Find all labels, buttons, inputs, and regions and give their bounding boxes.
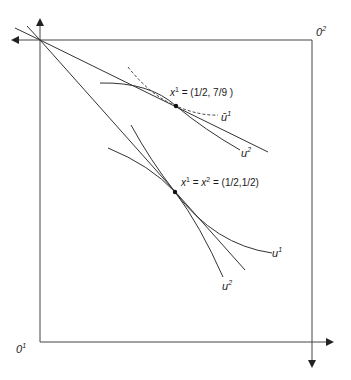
- curve-label-u2-lower: u2: [222, 279, 232, 292]
- curve-label-u2-upper: u2: [241, 146, 251, 159]
- origin-agent1-label: 01: [16, 342, 26, 355]
- budget-line-lower: [40, 40, 245, 270]
- edgeworth-box-diagram: 01 02 x1 = (1/2, 7/9 ) x1 = x2 = (1/2,1/…: [0, 0, 351, 380]
- point-upper-label: x1 = (1/2, 7/9 ): [169, 86, 233, 98]
- origin-agent2-label: 02: [316, 25, 326, 38]
- budget-line-lower-ext: [27, 26, 40, 40]
- budget-line-upper: [40, 40, 268, 152]
- point-lower-label: x1 = x2 = (1/2,1/2): [180, 176, 259, 188]
- allocation-point-lower: [173, 190, 177, 194]
- box: [15, 22, 330, 364]
- curve-label-u1-bar: ū1: [221, 110, 231, 123]
- indifference-curve-u1-lower: [108, 148, 272, 253]
- indifference-curve-u2-lower: [131, 125, 223, 277]
- budget-line-upper-ext: [15, 28, 40, 40]
- allocation-point-upper: [174, 104, 178, 108]
- curve-label-u1-lower: u1: [272, 246, 282, 259]
